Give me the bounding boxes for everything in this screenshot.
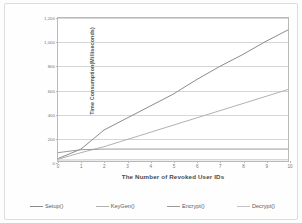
x-tick-label: 2	[103, 164, 106, 169]
x-tick-label: 7	[219, 164, 222, 169]
line-chart: 02004006008001,0001,200 012345678910 Tim…	[0, 0, 302, 223]
legend-item[interactable]: Decrypt()	[237, 203, 275, 209]
plot-area: 02004006008001,0001,200 012345678910 Tim…	[57, 17, 289, 162]
x-tick-mark	[197, 161, 198, 163]
chart-legend: Setup()KeyGen()Encrypt()Decrypt()	[30, 199, 275, 213]
x-tick-mark	[151, 161, 152, 163]
x-tick-label: 0	[57, 164, 60, 169]
y-tick-label: 1,000	[44, 40, 55, 45]
x-tick-mark	[128, 161, 129, 163]
y-axis-title: Time Consumption(Milliseconds)	[89, 6, 95, 136]
legend-line-swatch	[96, 206, 109, 207]
x-tick-label: 10	[287, 164, 292, 169]
legend-line-swatch	[167, 206, 180, 207]
legend-label: Encrypt()	[182, 203, 205, 209]
x-tick-label: 5	[173, 164, 176, 169]
series-line	[58, 149, 288, 153]
x-tick-label: 8	[242, 164, 245, 169]
x-tick-mark	[220, 161, 221, 163]
y-tick-label: 200	[48, 136, 55, 141]
y-tick-label: 0	[53, 161, 55, 166]
x-tick-mark	[58, 161, 59, 163]
x-tick-label: 3	[126, 164, 129, 169]
x-tick-mark	[267, 161, 268, 163]
legend-item[interactable]: Setup()	[30, 203, 63, 209]
y-tick-label: 600	[48, 88, 55, 93]
legend-label: KeyGen()	[111, 203, 135, 209]
legend-line-swatch	[237, 206, 250, 207]
x-tick-mark	[244, 161, 245, 163]
y-tick-label: 1,200	[44, 16, 55, 21]
x-tick-label: 6	[196, 164, 199, 169]
x-tick-mark	[104, 161, 105, 163]
x-tick-label: 1	[80, 164, 83, 169]
x-tick-label: 9	[266, 164, 269, 169]
legend-label: Decrypt()	[252, 203, 275, 209]
x-tick-mark	[81, 161, 82, 163]
figure-container: 02004006008001,0001,200 012345678910 Tim…	[0, 0, 302, 223]
x-tick-mark	[290, 161, 291, 163]
legend-item[interactable]: KeyGen()	[96, 203, 135, 209]
legend-item[interactable]: Encrypt()	[167, 203, 205, 209]
x-axis-title: The Number of Revoked User IDs	[57, 173, 289, 180]
x-tick-mark	[174, 161, 175, 163]
legend-label: Setup()	[45, 203, 63, 209]
legend-line-swatch	[30, 206, 43, 207]
x-tick-label: 4	[150, 164, 153, 169]
y-tick-label: 800	[48, 64, 55, 69]
y-tick-label: 400	[48, 112, 55, 117]
